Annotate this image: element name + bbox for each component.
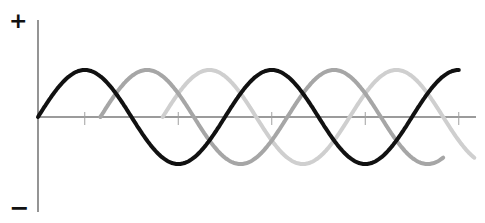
positive-label: + xyxy=(9,10,27,32)
x-axis-ticks xyxy=(85,112,459,125)
three-phase-chart xyxy=(0,0,485,223)
negative-label: − xyxy=(9,196,29,220)
